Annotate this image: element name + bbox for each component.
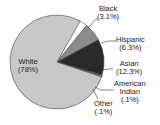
label-hispanic-pct: (6.3%) bbox=[116, 44, 145, 52]
label-white: White (78%) bbox=[18, 58, 38, 74]
leader-american-indian bbox=[95, 87, 114, 90]
label-american-indian-pct: (.1%) bbox=[114, 96, 146, 104]
label-asian: Asian (12.3%) bbox=[116, 60, 142, 76]
label-black: Black (3.1%) bbox=[97, 5, 119, 21]
leader-other bbox=[93, 89, 98, 99]
label-asian-pct: (12.3%) bbox=[116, 68, 142, 76]
label-hispanic: Hispanic (6.3%) bbox=[116, 36, 145, 52]
leader-hispanic bbox=[101, 41, 116, 43]
label-other-pct: (.1%) bbox=[94, 108, 113, 116]
label-white-pct: (78%) bbox=[18, 66, 38, 74]
label-other: Other (.1%) bbox=[94, 100, 113, 116]
label-black-pct: (3.1%) bbox=[97, 13, 119, 21]
label-american-indian: American Indian (.1%) bbox=[114, 80, 146, 104]
